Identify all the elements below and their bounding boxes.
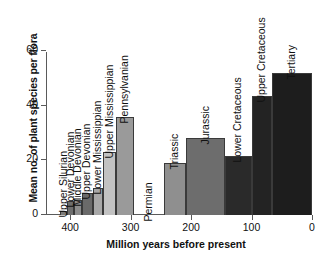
x-tick — [252, 215, 253, 220]
bar — [225, 156, 252, 215]
bar-label: Upper Mississippian — [103, 65, 114, 159]
y-tick: 40 — [41, 105, 46, 106]
x-axis-label: Million years before present — [40, 238, 312, 250]
bar-label: Triassic — [169, 134, 180, 170]
bar-label: Upper Cretaceous — [256, 17, 267, 102]
x-tick — [70, 215, 71, 220]
y-tick-label: 40 — [26, 98, 38, 110]
y-tick-label: 20 — [26, 152, 38, 164]
bar-label: Tertiary — [286, 45, 297, 79]
y-axis-line — [46, 52, 47, 215]
bar-label: Permian — [142, 182, 153, 221]
plot-area: 0204060 4003002001000 Upper SilurianLowe… — [46, 50, 312, 215]
x-tick — [312, 215, 313, 220]
y-tick: 60 — [41, 50, 46, 51]
bar-label: Lower Mississippian — [92, 100, 103, 194]
bar-label: Lower Cretaceous — [232, 78, 243, 163]
x-tick-label: 100 — [243, 221, 261, 233]
bar — [272, 73, 312, 215]
x-tick-label: 400 — [61, 221, 79, 233]
bar-label: Jurassic — [199, 106, 210, 145]
x-tick — [131, 215, 132, 220]
x-tick-label: 300 — [122, 221, 140, 233]
y-tick-label: 0 — [32, 207, 38, 219]
chart-figure: Mean no. of plant species per flora Mill… — [0, 0, 320, 261]
x-tick-label: 0 — [309, 221, 315, 233]
bar — [252, 96, 273, 215]
bar — [116, 117, 134, 215]
y-tick: 20 — [41, 159, 46, 160]
x-tick — [191, 215, 192, 220]
bar-label: Pennsylvanian — [118, 55, 129, 123]
y-tick-label: 60 — [26, 43, 38, 55]
bar — [103, 152, 115, 215]
bar — [164, 163, 186, 215]
y-tick: 0 — [41, 214, 46, 215]
x-tick-label: 200 — [182, 221, 200, 233]
bar — [186, 138, 225, 215]
